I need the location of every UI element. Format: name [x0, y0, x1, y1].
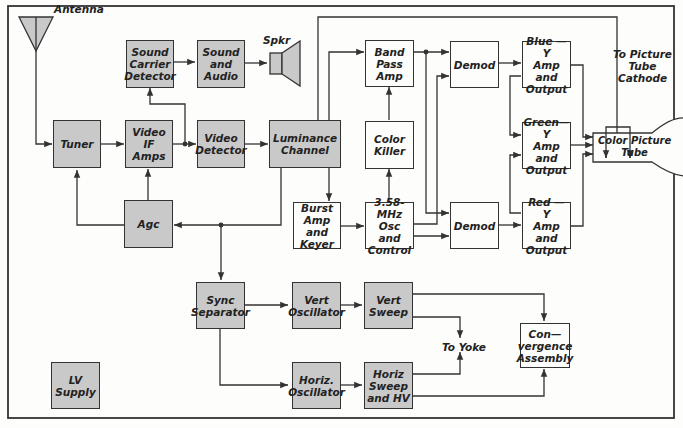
convergence-assembly-block: Con— vergence Assembly: [520, 323, 570, 368]
green-y-amp-block: Green—Y Amp and Output: [522, 122, 571, 169]
video-if-amps-block: Video IF Amps: [125, 120, 173, 168]
connection-wires: [0, 0, 683, 428]
vert-oscillator-block: Vert Oscillator: [292, 282, 341, 329]
to-picture-tube-cathode-label: To Picture Tube Cathode: [613, 48, 672, 84]
sync-separator-block: Sync Separator: [196, 282, 245, 329]
osc-and-control-block: 3.58-MHz Osc and Control: [365, 202, 414, 249]
lv-supply-block: LV Supply: [51, 362, 100, 409]
sound-and-audio-block: Sound and Audio: [197, 40, 245, 88]
burst-amp-keyer-block: Burst Amp and Keyer: [293, 202, 341, 249]
antenna-label: Antenna: [54, 3, 104, 15]
color-killer-block: Color Killer: [365, 121, 414, 169]
speaker-label: Spkr: [263, 34, 290, 46]
video-detector-block: Video Detector: [197, 120, 245, 168]
demod-bottom-block: Demod: [450, 202, 499, 249]
horiz-oscillator-block: Horiz. Oscillator: [292, 362, 341, 409]
tuner-block: Tuner: [53, 120, 101, 168]
luminance-channel-block: Luminance Channel: [269, 120, 341, 168]
sound-carrier-detector-block: Sound Carrier Detector: [126, 40, 174, 88]
band-pass-amp-block: Band Pass Amp: [365, 40, 414, 87]
agc-block: Agc: [124, 200, 173, 248]
color-picture-tube-label: Color Picture Tube: [598, 135, 671, 159]
horiz-sweep-hv-block: Horiz Sweep and HV: [364, 362, 413, 409]
to-yoke-label: To Yoke: [442, 341, 486, 353]
blue-y-amp-block: Blue — Y Amp and Output: [522, 41, 571, 88]
demod-top-block: Demod: [450, 41, 499, 88]
red-y-amp-block: Red — Y Amp and Output: [522, 202, 571, 249]
vert-sweep-block: Vert Sweep: [364, 282, 413, 329]
